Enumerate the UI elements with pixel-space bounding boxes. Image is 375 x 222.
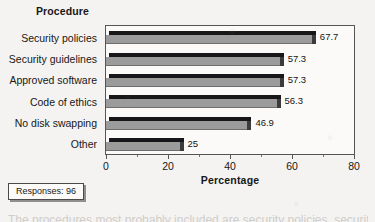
bar-value-label: 25 bbox=[188, 138, 199, 149]
category-axis-labels: Security policiesSecurity guidelinesAppr… bbox=[0, 25, 101, 155]
responses-annotation: Responses: 96 bbox=[8, 183, 84, 200]
x-axis-title: Percentage bbox=[105, 174, 355, 186]
bar bbox=[106, 53, 284, 66]
bar bbox=[106, 74, 284, 87]
bar-value-label: 57.3 bbox=[288, 74, 307, 85]
x-tick-major bbox=[168, 155, 169, 159]
x-tick-label: 40 bbox=[224, 160, 236, 172]
bar-front-face bbox=[106, 35, 312, 44]
x-tick-major bbox=[106, 155, 107, 159]
x-tick-major bbox=[354, 155, 355, 159]
category-label: Security policies bbox=[21, 32, 97, 44]
bar-front-face bbox=[106, 142, 180, 151]
bar-value-label: 46.9 bbox=[255, 117, 274, 128]
bar bbox=[106, 95, 281, 108]
category-label: Approved software bbox=[9, 74, 97, 86]
bar bbox=[106, 138, 184, 151]
x-tick-label: 0 bbox=[103, 160, 109, 172]
category-label: Other bbox=[71, 138, 97, 150]
bar-end-cap bbox=[312, 35, 316, 44]
bar-front-face bbox=[106, 99, 277, 108]
x-tick-minor bbox=[261, 155, 262, 157]
x-tick-minor bbox=[323, 155, 324, 157]
bar bbox=[106, 117, 251, 130]
bar-front-face bbox=[106, 121, 247, 130]
x-tick-minor bbox=[199, 155, 200, 157]
category-label: No disk swapping bbox=[15, 117, 97, 129]
x-tick-label: 80 bbox=[348, 160, 360, 172]
bars-layer: 67.757.357.356.346.925 bbox=[106, 26, 354, 154]
x-tick-label: 60 bbox=[286, 160, 298, 172]
bar-end-cap bbox=[277, 99, 281, 108]
bar-front-face bbox=[106, 78, 280, 87]
bar-end-cap bbox=[247, 121, 251, 130]
bar-chart: Procedure Security policiesSecurity guid… bbox=[0, 0, 375, 222]
bar-end-cap bbox=[280, 78, 284, 87]
page-body-text-cutoff: The procedures most probably included ar… bbox=[8, 214, 368, 222]
x-tick-major bbox=[230, 155, 231, 159]
bar-end-cap bbox=[180, 142, 184, 151]
bar-front-face bbox=[106, 57, 280, 66]
x-tick-minor bbox=[137, 155, 138, 157]
bar-value-label: 56.3 bbox=[285, 95, 304, 106]
x-tick-major bbox=[292, 155, 293, 159]
category-label: Code of ethics bbox=[30, 96, 97, 108]
bar bbox=[106, 31, 316, 44]
bar-end-cap bbox=[280, 57, 284, 66]
category-label: Security guidelines bbox=[9, 53, 97, 65]
bar-value-label: 57.3 bbox=[288, 53, 307, 64]
x-axis-ticks: 020406080 bbox=[105, 155, 355, 160]
series-title: Procedure bbox=[36, 5, 89, 17]
bar-value-label: 67.7 bbox=[320, 31, 339, 42]
x-tick-label: 20 bbox=[162, 160, 174, 172]
